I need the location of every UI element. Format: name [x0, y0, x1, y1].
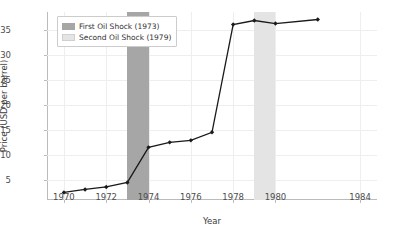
- chart-legend: First Oil Shock (1973) Second Oil Shock …: [57, 16, 177, 47]
- x-tick-label: 1978: [222, 192, 244, 202]
- data-point-marker: [189, 138, 193, 142]
- legend-swatch-icon: [62, 23, 75, 30]
- data-point-marker: [83, 187, 87, 191]
- data-point-marker: [104, 185, 108, 189]
- y-tick-mark: [44, 105, 47, 106]
- y-tick-label: 5: [6, 175, 11, 185]
- x-tick-label: 1984: [349, 192, 371, 202]
- legend-swatch-icon: [62, 34, 75, 41]
- y-tick-mark: [44, 30, 47, 31]
- x-axis-label: Year: [203, 216, 221, 226]
- x-tick-label: 1976: [180, 192, 202, 202]
- x-tick-label: 1974: [138, 192, 160, 202]
- y-tick-mark: [44, 55, 47, 56]
- chart-figure: Price (USD per barrel) Year First Oil Sh…: [0, 0, 395, 231]
- legend-item-first-shock: First Oil Shock (1973): [62, 21, 171, 31]
- y-tick-label: 35: [0, 25, 11, 35]
- y-tick-label: 15: [0, 125, 11, 135]
- x-tick-label: 1972: [95, 192, 117, 202]
- data-point-marker: [231, 22, 235, 26]
- x-tick-label: 1980: [265, 192, 287, 202]
- y-tick-mark: [44, 155, 47, 156]
- y-tick-label: 25: [0, 75, 11, 85]
- data-point-marker: [167, 140, 171, 144]
- data-point-marker: [210, 130, 214, 134]
- y-tick-mark: [44, 130, 47, 131]
- legend-label: Second Oil Shock (1979): [79, 33, 171, 42]
- data-point-marker: [252, 18, 256, 22]
- legend-label: First Oil Shock (1973): [79, 22, 160, 31]
- x-tick-label: 1970: [53, 192, 75, 202]
- data-point-marker: [273, 21, 277, 25]
- y-tick-label: 20: [0, 100, 11, 110]
- y-tick-label: 30: [0, 50, 11, 60]
- y-tick-label: 10: [0, 150, 11, 160]
- legend-item-second-shock: Second Oil Shock (1979): [62, 32, 171, 42]
- y-tick-mark: [44, 80, 47, 81]
- y-tick-mark: [44, 180, 47, 181]
- horizontal-scrollbar-track[interactable]: [0, 231, 395, 246]
- plot-area: First Oil Shock (1973) Second Oil Shock …: [47, 12, 377, 200]
- data-point-marker: [316, 17, 320, 21]
